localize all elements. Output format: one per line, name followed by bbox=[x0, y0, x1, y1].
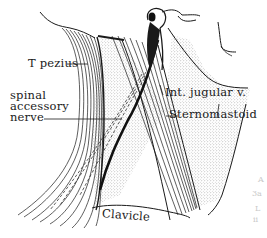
label-clavicle: Clavicle bbox=[102, 208, 151, 222]
chin-contour bbox=[218, 22, 236, 52]
margin-mark: ii bbox=[253, 216, 258, 224]
margin-mark: A bbox=[258, 176, 264, 184]
label-sternomastoid: Sternomastoid bbox=[169, 109, 257, 120]
label-trapezius: T pezius bbox=[28, 58, 78, 69]
neck-outline bbox=[40, 12, 95, 38]
label-int-jugular: Int. jugular v. bbox=[165, 87, 246, 98]
mastoid-outline bbox=[162, 10, 200, 16]
ear-dark-mark bbox=[149, 13, 156, 22]
ear-lobe-curve bbox=[178, 16, 196, 21]
margin-mark: L bbox=[255, 205, 260, 213]
margin-mark: 3a bbox=[252, 190, 262, 198]
label-spinal-accessory-line3: nerve bbox=[10, 112, 44, 123]
anatomy-figure: T pezius spinal accessory nerve Int. jug… bbox=[0, 0, 267, 238]
vessel-line bbox=[160, 28, 163, 70]
